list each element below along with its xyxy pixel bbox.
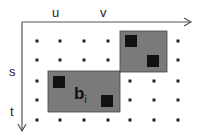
label-t: t — [10, 104, 14, 119]
grid-dot — [129, 99, 132, 102]
grid-dot — [153, 119, 156, 122]
grid-dot — [36, 80, 39, 83]
filled-square — [101, 95, 113, 107]
grid-dot — [59, 119, 62, 122]
grid-dot — [177, 99, 180, 102]
grid-canvas — [0, 0, 203, 137]
grid-dot — [129, 119, 132, 122]
block-label-main: b — [74, 84, 84, 103]
grid-dot — [177, 80, 180, 83]
filled-square — [147, 55, 159, 67]
label-u: u — [52, 5, 59, 20]
filled-square — [125, 35, 137, 47]
diagram: u v s t bi — [0, 0, 203, 137]
block-label: bi — [74, 84, 87, 105]
grid-dot — [83, 40, 86, 43]
grid-dot — [107, 40, 110, 43]
grid-dot — [36, 119, 39, 122]
grid-dot — [177, 119, 180, 122]
grid-dot — [36, 40, 39, 43]
block-label-sub: i — [84, 94, 86, 105]
grid-dot — [153, 99, 156, 102]
grid-dot — [59, 40, 62, 43]
label-v: v — [100, 5, 107, 20]
grid-dot — [177, 40, 180, 43]
grid-dot — [36, 59, 39, 62]
grid-dot — [59, 59, 62, 62]
grid-dot — [107, 119, 110, 122]
label-s: s — [9, 64, 16, 79]
grid-dot — [83, 59, 86, 62]
grid-dot — [153, 80, 156, 83]
grid-dot — [177, 59, 180, 62]
grid-dot — [129, 80, 132, 83]
filled-square — [53, 76, 65, 88]
grid-dot — [107, 59, 110, 62]
grid-dot — [83, 119, 86, 122]
grid-dot — [36, 99, 39, 102]
